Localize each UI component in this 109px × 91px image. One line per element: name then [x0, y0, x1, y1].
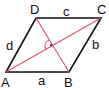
side-label-c: c: [63, 4, 70, 19]
vertex-label-a: A: [1, 75, 10, 90]
diagonal-bd: [36, 18, 69, 72]
vertex-label-c: C: [97, 2, 106, 17]
side-label-b: b: [92, 37, 99, 52]
side-label-a: a: [38, 73, 46, 88]
rhombus-diagram: D C A B c d b a: [0, 0, 109, 91]
vertex-label-b: B: [64, 75, 73, 90]
side-label-d: d: [6, 38, 13, 53]
right-angle-dot: [50, 44, 52, 46]
vertex-label-d: D: [30, 2, 39, 17]
